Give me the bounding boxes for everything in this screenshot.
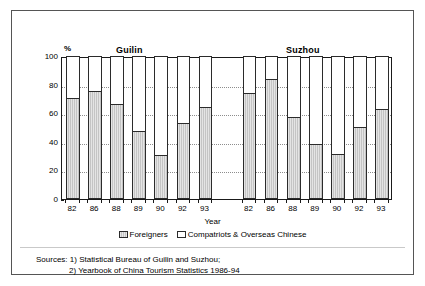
bar-segment-foreigners (200, 107, 212, 198)
y-axis-tick-mark (61, 200, 64, 201)
x-axis-tick-mark (101, 200, 102, 203)
bar-segment-foreigners (288, 117, 300, 199)
y-axis-tick-label: 80 (34, 82, 58, 90)
chart-legend: Foreigners Compatriots & Overseas Chines… (12, 230, 413, 239)
y-axis: 020406080100 (32, 57, 58, 200)
x-axis-tick-mark (352, 200, 353, 203)
y-axis-tick-label: 60 (34, 110, 58, 118)
bar-segment-foreigners (332, 154, 344, 198)
bar-slot (331, 58, 345, 199)
x-axis-tick-mark (344, 200, 345, 203)
bar-slot (287, 58, 301, 199)
panel-label-suzhou: Suzhou (286, 45, 320, 55)
bar-segment-foreigners (133, 131, 145, 198)
x-axis-tick-mark (300, 200, 301, 203)
x-axis-tick-mark (176, 200, 177, 203)
x-axis-tick-label: 82 (238, 204, 260, 213)
stacked-bar (353, 56, 367, 199)
bar-segment-foreigners (111, 104, 123, 198)
bar-segment-foreigners (89, 91, 101, 198)
footer-divider (20, 247, 405, 248)
x-axis-tick-mark (322, 200, 323, 203)
bar-slot (243, 58, 257, 199)
x-axis-tick-label: 89 (304, 204, 326, 213)
sources-line-1: Sources: 1) Statistical Bureau of Guilin… (36, 254, 240, 265)
x-axis-tick-mark (123, 200, 124, 203)
bar-slot (110, 58, 124, 199)
x-axis-tick-mark (242, 200, 243, 203)
x-axis-tick-mark (366, 200, 367, 203)
bar-segment-foreigners (155, 155, 167, 198)
stacked-bar (375, 56, 389, 199)
x-axis-tick-mark (388, 200, 389, 203)
x-axis-tick-label: 86 (260, 204, 282, 213)
bar-segment-foreigners (376, 109, 388, 198)
x-axis-tick-mark (308, 200, 309, 203)
x-axis-tick-mark (198, 200, 199, 203)
y-axis-tick-label: 40 (34, 139, 58, 147)
bar-slot (309, 58, 323, 199)
x-axis-tick-mark (189, 200, 190, 203)
x-axis-tick-mark (374, 200, 375, 203)
x-axis-tick-mark (167, 200, 168, 203)
x-axis-tick-label: 92 (348, 204, 370, 213)
x-axis-tick-mark (330, 200, 331, 203)
x-axis-tick-mark (277, 200, 278, 203)
stacked-bar (199, 56, 213, 199)
x-axis-tick-mark (131, 200, 132, 203)
x-axis-tick-mark (145, 200, 146, 203)
y-axis-tick-label: 0 (34, 196, 58, 204)
bar-segment-foreigners (354, 127, 366, 199)
bar-segment-foreigners (67, 98, 79, 198)
x-axis-tick-label: 86 (83, 204, 105, 213)
y-axis-unit-label: % (64, 44, 71, 53)
legend-label-compatriots: Compatriots & Overseas Chinese (188, 230, 307, 239)
x-axis-tick-label: 93 (193, 204, 215, 213)
stacked-bar (243, 56, 257, 199)
y-axis-tick-label: 100 (34, 53, 58, 61)
sources-note: Sources: 1) Statistical Bureau of Guilin… (36, 254, 240, 276)
chart-figure: % Guilin Suzhou 020406080100 Year Foreig… (11, 10, 414, 275)
x-axis-tick-mark (65, 200, 66, 203)
stacked-bar (331, 56, 345, 199)
x-axis-tick-mark (211, 200, 212, 203)
bar-segment-foreigners (244, 93, 256, 198)
x-axis-tick-mark (286, 200, 287, 203)
bar-slot (88, 58, 102, 199)
bar-segment-foreigners (310, 144, 322, 198)
x-axis-tick-mark (153, 200, 154, 203)
bar-slot (353, 58, 367, 199)
stacked-bar (309, 56, 323, 199)
stacked-bar (177, 56, 191, 199)
bar-slot (199, 58, 213, 199)
legend-label-foreigners: Foreigners (130, 230, 168, 239)
x-axis-tick-label: 93 (370, 204, 392, 213)
stacked-bar (88, 56, 102, 199)
sources-line-2: 2) Yearbook of China Tourism Statistics … (36, 265, 240, 276)
stacked-bar (154, 56, 168, 199)
x-axis-tick-mark (79, 200, 80, 203)
bar-segment-foreigners (178, 123, 190, 198)
x-axis-tick-label: 82 (61, 204, 83, 213)
bar-slot (66, 58, 80, 199)
panel-label-guilin: Guilin (116, 45, 143, 55)
bar-slot (177, 58, 191, 199)
x-axis-tick-mark (264, 200, 265, 203)
stacked-bar (287, 56, 301, 199)
plot-area (61, 57, 392, 200)
x-axis-tick-mark (255, 200, 256, 203)
x-axis-title: Year (12, 217, 413, 226)
bar-slot (154, 58, 168, 199)
stacked-bar (132, 56, 146, 199)
x-axis-tick-label: 88 (105, 204, 127, 213)
stacked-bar (265, 56, 279, 199)
x-axis-tick-label: 90 (149, 204, 171, 213)
x-axis-tick-label: 88 (282, 204, 304, 213)
x-axis-tick-label: 92 (171, 204, 193, 213)
legend-item-compatriots: Compatriots & Overseas Chinese (177, 230, 307, 239)
y-axis-tick-label: 20 (34, 167, 58, 175)
x-axis-tick-mark (109, 200, 110, 203)
legend-swatch-compatriots (177, 231, 186, 238)
bar-slot (375, 58, 389, 199)
x-axis-tick-mark (87, 200, 88, 203)
